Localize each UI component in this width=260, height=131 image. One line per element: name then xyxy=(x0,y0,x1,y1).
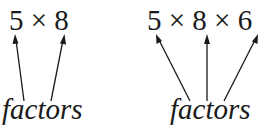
arrow-right-5 xyxy=(156,34,190,101)
arrow-left-5 xyxy=(13,34,25,101)
arrow-right-6 xyxy=(224,34,258,101)
arrows xyxy=(0,0,260,131)
arrow-left-8 xyxy=(51,34,66,101)
arrow-right-8 xyxy=(204,34,210,101)
